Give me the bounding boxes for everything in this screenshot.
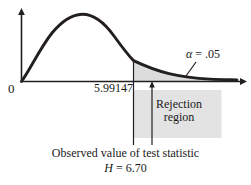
y-axis-arrowhead (18, 8, 25, 15)
rejection-region-line-1: Rejection (145, 98, 213, 111)
origin-tick-label: 0 (8, 82, 15, 96)
figure-caption: Observed value of test statistic H = 6.7… (0, 147, 251, 175)
alpha-label: α = .05 (186, 48, 220, 61)
rejection-region-label: Rejection region (145, 98, 213, 124)
statistic-value: = 6.70 (113, 161, 147, 175)
caption-line-2: H = 6.70 (0, 162, 251, 175)
chi-square-rejection-region-figure: 0 5.99147 α = .05 Rejection region Obser… (0, 0, 251, 185)
alpha-value: = .05 (192, 47, 220, 61)
critical-value-tick-label: 5.99147 (94, 82, 133, 95)
rejection-region-line-2: region (145, 111, 213, 124)
x-axis-arrowhead (240, 78, 247, 85)
statistic-symbol: H (104, 161, 113, 175)
caption-line-1: Observed value of test statistic (0, 147, 251, 160)
alpha-leader-line (186, 62, 196, 76)
